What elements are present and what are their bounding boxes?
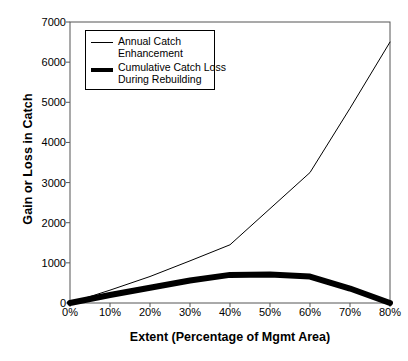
x-tick-label: 80% [367, 306, 408, 318]
legend-item-label: Cumulative Catch Loss During Rebuilding [118, 62, 226, 85]
legend-item-cumulative-catch-loss: Cumulative Catch Loss During Rebuilding [91, 62, 214, 85]
thick-line-swatch-icon [91, 68, 113, 72]
legend-label-line-2: Enhancement [118, 47, 183, 59]
legend-item-annual-catch-enhancement: Annual Catch Enhancement [91, 36, 214, 59]
y-tick-label: 6000 [26, 56, 66, 68]
y-tick-label: 7000 [26, 16, 66, 28]
y-tick-label: 1000 [26, 257, 66, 269]
chart-figure: 01000200030004000500060007000 0%10%20%30… [0, 0, 408, 361]
legend-item-label: Annual Catch Enhancement [118, 36, 183, 59]
legend-label-line-1: Cumulative Catch Loss [118, 61, 226, 73]
data-series-2 [70, 275, 390, 304]
y-axis-title: Gain or Loss in Catch [21, 69, 35, 249]
legend-label-line-1: Annual Catch [118, 35, 181, 47]
chart-legend: Annual Catch Enhancement Cumulative Catc… [85, 30, 215, 90]
legend-label-line-2: During Rebuilding [118, 73, 201, 85]
thin-line-swatch-icon [91, 42, 113, 43]
x-axis-title: Extent (Percentage of Mgmt Area) [70, 330, 390, 344]
